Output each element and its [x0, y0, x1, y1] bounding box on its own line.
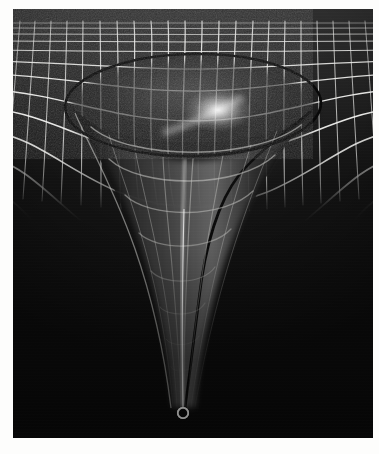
illustration-plate [13, 9, 373, 438]
spacetime-curvature-scene [13, 9, 373, 438]
figure-root: A white rectangular grid mesh stretched … [0, 0, 379, 454]
singularity-marker-ring [178, 408, 188, 418]
